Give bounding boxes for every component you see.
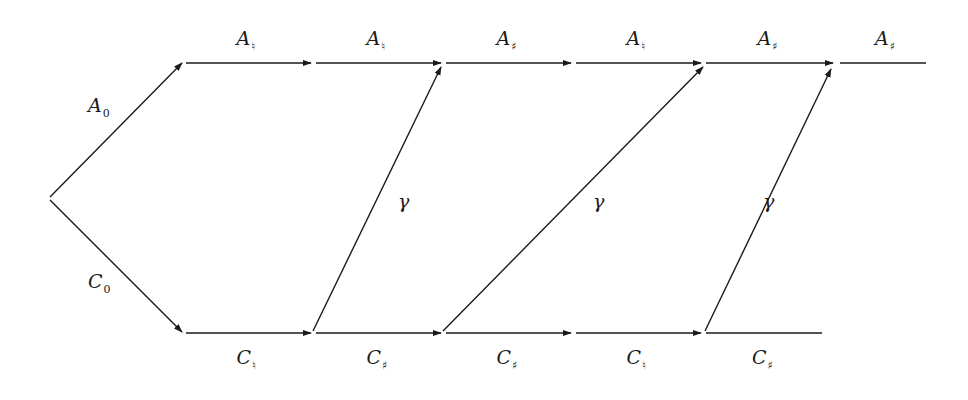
- top-label-2: A♯: [497, 29, 517, 48]
- bottom-label-4: C♯: [752, 348, 773, 367]
- edge-C0: [50, 200, 182, 332]
- label-symbol: C: [237, 346, 252, 368]
- label-symbol: C: [752, 346, 767, 368]
- label-subscript: ♯: [512, 359, 517, 372]
- label-symbol: A: [88, 94, 102, 116]
- label-subscript: 0: [104, 283, 111, 296]
- label-subscript: ♮: [641, 40, 645, 53]
- bottom-label-3: C♮: [627, 348, 646, 367]
- label-symbol: C: [627, 346, 642, 368]
- bottom-label-1: C♯: [367, 348, 388, 367]
- label-symbol: C: [367, 346, 382, 368]
- diagram-canvas: A0C0A♮A♮A♯A♮A♯A♯C♮C♯C♯C♮C♯γγγ: [0, 0, 968, 400]
- label-subscript: 0: [103, 107, 110, 120]
- gamma-label-2: γ: [763, 192, 774, 211]
- label-subscript: ♮: [252, 359, 256, 372]
- label-subscript: ♮: [642, 359, 646, 372]
- label-symbol: C: [88, 270, 103, 292]
- gamma-edge-0: [313, 67, 441, 331]
- bottom-label-0: C♮: [237, 348, 256, 367]
- label-subscript: ♯: [382, 359, 387, 372]
- label-C0: C0: [88, 272, 111, 291]
- label-subscript: ♮: [381, 40, 385, 53]
- bottom-label-2: C♯: [497, 348, 518, 367]
- label-symbol: A: [758, 27, 772, 49]
- label-A0: A0: [88, 96, 110, 115]
- label-symbol: C: [497, 346, 512, 368]
- label-subscript: ♯: [772, 40, 777, 53]
- gamma-edge-1: [443, 67, 703, 331]
- top-label-4: A♯: [758, 29, 778, 48]
- label-symbol: A: [237, 27, 251, 49]
- label-symbol: A: [627, 27, 641, 49]
- label-subscript: ♯: [890, 40, 895, 53]
- edge-A0: [50, 63, 182, 197]
- label-symbol: A: [367, 27, 381, 49]
- label-subscript: ♯: [511, 40, 516, 53]
- label-subscript: ♯: [768, 359, 773, 372]
- gamma-label-0: γ: [398, 192, 409, 211]
- top-label-1: A♮: [367, 29, 386, 48]
- label-symbol: A: [497, 27, 511, 49]
- arrow-diagram: [0, 0, 968, 400]
- label-subscript: ♮: [251, 40, 255, 53]
- gamma-label-1: γ: [593, 192, 604, 211]
- label-symbol: A: [875, 27, 889, 49]
- top-label-5: A♯: [875, 29, 895, 48]
- top-label-3: A♮: [627, 29, 646, 48]
- top-label-0: A♮: [237, 29, 256, 48]
